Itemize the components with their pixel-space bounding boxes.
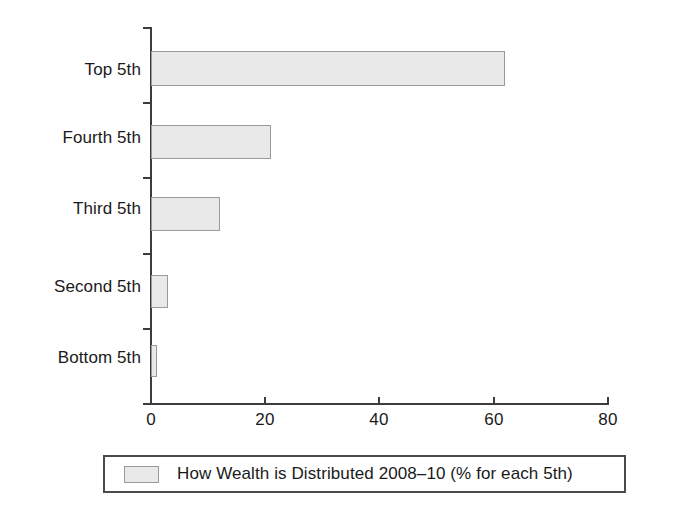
legend-color-swatch (124, 466, 159, 483)
x-axis-tick-60 (493, 397, 495, 405)
bar-third-5th[interactable] (151, 197, 220, 231)
bar-second-5th[interactable] (151, 275, 168, 308)
y-axis-label-fourth-5th: Fourth 5th (1, 128, 141, 148)
y-axis-tick-3 (143, 253, 152, 255)
bar-bottom-5th[interactable] (151, 345, 157, 377)
x-axis-label-0: 0 (121, 410, 181, 430)
y-axis-label-third-5th: Third 5th (1, 199, 141, 219)
x-axis-tick-40 (378, 397, 380, 405)
bar-fourth-5th[interactable] (151, 125, 271, 159)
x-axis-label-40: 40 (349, 410, 409, 430)
x-axis-label-80: 80 (578, 410, 638, 430)
bar-chart: Top 5th Fourth 5th Third 5th Second 5th … (0, 0, 677, 521)
y-axis-label-top-5th: Top 5th (1, 60, 141, 80)
y-axis-tick-1 (143, 102, 152, 104)
x-axis-tick-80 (607, 397, 609, 405)
chart-legend: How Wealth is Distributed 2008–10 (% for… (103, 455, 626, 493)
y-axis-tick-0 (143, 27, 152, 29)
x-axis-tick-0 (150, 397, 152, 405)
x-axis-label-60: 60 (464, 410, 524, 430)
plot-area: Top 5th Fourth 5th Third 5th Second 5th … (0, 0, 677, 440)
x-axis-label-20: 20 (235, 410, 295, 430)
y-axis-tick-2 (143, 177, 152, 179)
x-axis-tick-20 (264, 397, 266, 405)
y-axis-labels: Top 5th Fourth 5th Third 5th Second 5th … (0, 0, 141, 440)
y-axis-label-bottom-5th: Bottom 5th (1, 348, 141, 368)
bar-top-5th[interactable] (151, 51, 505, 86)
y-axis-tick-4 (143, 328, 152, 330)
y-axis-label-second-5th: Second 5th (1, 277, 141, 297)
legend-label: How Wealth is Distributed 2008–10 (% for… (177, 464, 573, 484)
